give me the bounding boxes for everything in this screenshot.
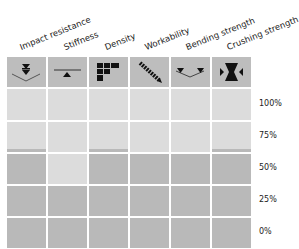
bar-density <box>89 89 128 248</box>
density-icon <box>89 57 128 87</box>
bar-workability <box>130 89 169 248</box>
stiffness-icon <box>48 57 87 87</box>
tick-75: 75% <box>259 131 277 140</box>
header-workability: Workability <box>143 25 191 52</box>
bending-icon <box>171 57 210 87</box>
workability-icon <box>130 57 169 87</box>
gridline <box>0 120 252 122</box>
tick-50: 50% <box>259 163 277 172</box>
tick-25: 25% <box>259 195 277 204</box>
bar-crushing-strength <box>212 89 251 248</box>
header-density: Density <box>103 31 137 52</box>
gridline <box>0 184 252 186</box>
header-impact-resistance: Impact resistance <box>18 14 92 52</box>
tick-100: 100% <box>259 99 282 108</box>
header-crushing-strength: Crushing strength <box>225 14 299 52</box>
gridline <box>0 216 252 218</box>
bar-bending-strength <box>171 89 210 248</box>
crushing-icon <box>212 57 251 87</box>
bar-stiffness <box>48 89 87 248</box>
tick-0: 0% <box>259 227 272 236</box>
gridline <box>0 152 252 154</box>
bar-impact-resistance <box>7 89 46 248</box>
impact-icon <box>7 57 46 87</box>
